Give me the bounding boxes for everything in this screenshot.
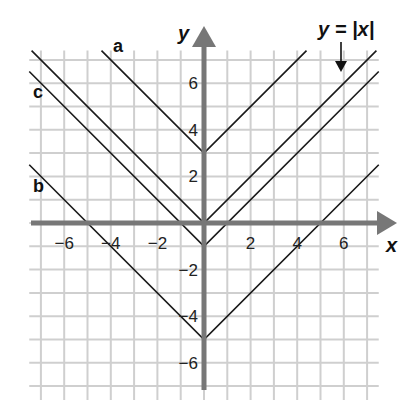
x-tick-label: 4	[292, 234, 301, 253]
x-tick-label: 6	[339, 234, 348, 253]
x-axis-label: x	[385, 234, 398, 256]
label-c: c	[33, 82, 43, 102]
x-tick-label: 2	[246, 234, 255, 253]
y-axis-label: y	[177, 22, 190, 44]
y-axis-arrow-icon	[192, 26, 216, 47]
y-tick-label: 2	[189, 167, 198, 186]
graph-canvas: −6−4−2246 642−2−4−6 x y a c b y = |x|	[0, 0, 415, 406]
y-tick-label: −4	[179, 307, 198, 326]
pointer-arrow-icon	[335, 61, 347, 72]
x-tick-label: −6	[55, 234, 74, 253]
label-a: a	[113, 36, 124, 56]
y-tick-label: −6	[179, 354, 198, 373]
x-axis-arrow-icon	[377, 211, 397, 235]
x-tick-label: −2	[148, 234, 167, 253]
parent-function-label: y = |x|	[317, 18, 374, 40]
y-tick-label: 4	[189, 121, 198, 140]
x-tick-label: −4	[101, 234, 120, 253]
y-tick-label: 6	[189, 74, 198, 93]
label-b: b	[33, 176, 44, 196]
y-tick-label: −2	[179, 261, 198, 280]
